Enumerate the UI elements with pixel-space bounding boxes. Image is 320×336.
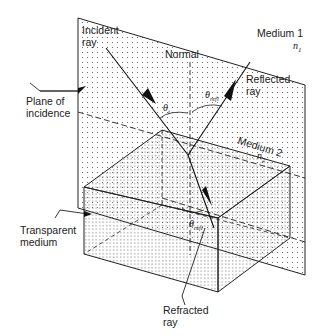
label-n2: n2 — [257, 150, 266, 164]
refraction-diagram: Incident ray Normal Medium 1 n1 Reflecte… — [0, 0, 320, 336]
label-incident-ray: Incident ray — [82, 24, 119, 48]
label-theta-refr: θrefl — [189, 218, 203, 231]
label-reflected-ray: Reflected ray — [246, 73, 290, 97]
label-n1: n1 — [293, 40, 302, 54]
label-theta-i: θi — [163, 102, 170, 115]
label-plane-of-incidence: Plane of incidence — [26, 95, 70, 119]
label-refracted-ray: Refracted ray — [163, 304, 209, 328]
label-normal: Normal — [165, 48, 199, 60]
label-theta-refl: θrefl — [205, 89, 219, 102]
label-medium1: Medium 1 — [257, 27, 303, 39]
diagram-svg — [0, 0, 320, 336]
label-transparent-medium: Transparent medium — [20, 224, 76, 248]
